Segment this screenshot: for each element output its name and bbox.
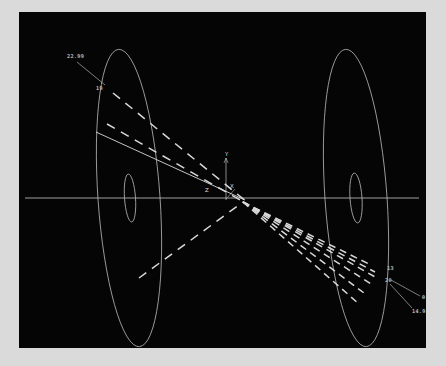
ray-out-2 bbox=[243, 202, 375, 272]
ray-trace-plot-area: 22.991913200.6414.93 YXZ bbox=[19, 12, 426, 348]
x-axis-label: X bbox=[230, 184, 234, 190]
annotation-upper-value: 22.99 bbox=[67, 54, 84, 59]
z-axis-label: Z bbox=[205, 188, 209, 194]
ray-out-6 bbox=[243, 202, 359, 304]
ray-trace-svg bbox=[19, 12, 426, 348]
ray-out-5 bbox=[243, 202, 364, 293]
annotation-lower-value-2-leader bbox=[390, 284, 412, 308]
ray-in-4 bbox=[139, 202, 243, 278]
ray-out-3 bbox=[243, 202, 377, 278]
outgoing-rays-group bbox=[243, 202, 377, 304]
annotation-upper-index: 19 bbox=[96, 86, 103, 91]
annotation-leader-lines-group bbox=[77, 62, 420, 308]
ray-in-3 bbox=[96, 132, 245, 200]
x-axis-line bbox=[226, 189, 235, 199]
annotation-lower-value-1: 0.64 bbox=[422, 295, 426, 300]
y-axis-label: Y bbox=[225, 152, 228, 158]
ray-in-1 bbox=[113, 93, 247, 202]
annotation-lower-index: 13 bbox=[387, 266, 394, 271]
figure-root: 22.991913200.6414.93 YXZ bbox=[0, 0, 446, 366]
annotation-lower-index2: 20 bbox=[385, 278, 392, 283]
incoming-rays-group bbox=[96, 93, 247, 278]
annotation-upper-value-leader bbox=[77, 62, 105, 85]
ray-out-4 bbox=[243, 202, 371, 284]
annotation-lower-value-2: 14.93 bbox=[412, 309, 426, 314]
annotation-lower-index2-leader bbox=[391, 280, 420, 296]
